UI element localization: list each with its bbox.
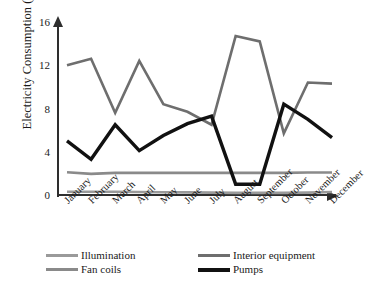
- figure-caption: [30, 282, 355, 291]
- plot-area: 0481216: [57, 18, 346, 196]
- legend-swatch-icon: [198, 268, 230, 272]
- y-tick-label-4: 4: [45, 146, 51, 157]
- y-tick-label-12: 12: [39, 60, 50, 71]
- legend-label: Pumps: [233, 264, 263, 275]
- legend-item-pumps[interactable]: Pumps: [198, 264, 350, 275]
- y-tick-label-0: 0: [45, 190, 51, 201]
- legend-item-illumination[interactable]: Illumination: [46, 250, 198, 261]
- y-tick-label-16: 16: [39, 17, 50, 28]
- legend-label: Illumination: [81, 250, 135, 261]
- legend-item-interior-equipment[interactable]: Interior equipment: [198, 250, 350, 261]
- legend-label: Interior equipment: [233, 250, 315, 261]
- series-lines: [57, 18, 346, 196]
- chart-legend: IlluminationInterior equipmentFan coilsP…: [46, 250, 346, 275]
- y-axis-title: Electricity Consumption (GJ): [20, 0, 35, 141]
- legend-label: Fan coils: [81, 264, 121, 275]
- legend-swatch-icon: [46, 268, 78, 271]
- legend-swatch-icon: [46, 254, 78, 257]
- legend-swatch-icon: [198, 254, 230, 257]
- y-tick-label-8: 8: [45, 103, 51, 114]
- x-axis-labels: JanuaryFebruaryMarchAprilMayJuneJulyAugu…: [57, 198, 346, 242]
- legend-item-fan-coils[interactable]: Fan coils: [46, 264, 198, 275]
